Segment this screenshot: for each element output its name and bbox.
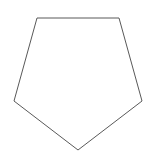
pentagon-canvas [0,0,153,158]
canvas-background [0,0,153,158]
pentagon-svg [0,0,153,158]
